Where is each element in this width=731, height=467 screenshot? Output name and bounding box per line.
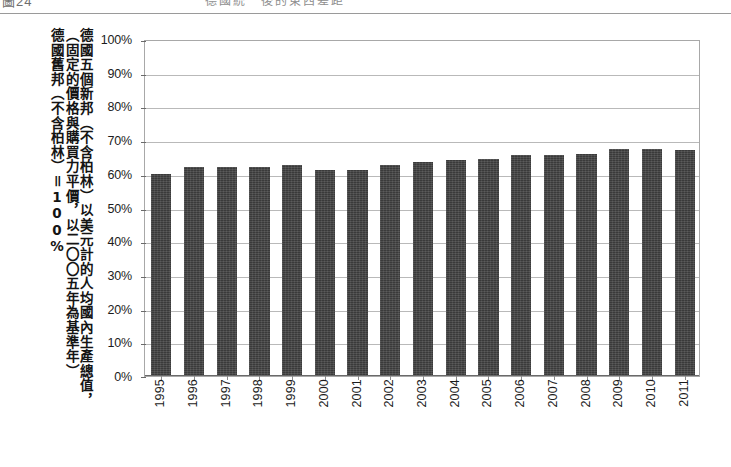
bar xyxy=(511,155,531,376)
y-axis-tick-label: 50% xyxy=(108,202,132,216)
x-axis-tick-label: 2009 xyxy=(611,379,625,408)
y-axis-tick-label: 40% xyxy=(108,235,132,249)
x-axis-tick-label: 1997 xyxy=(219,379,233,408)
page-header-right-text: 德國統一後的東西差距 xyxy=(205,0,345,8)
y-axis-tick-label: 80% xyxy=(108,100,132,114)
bar xyxy=(380,165,400,376)
x-axis-tick-label: 2002 xyxy=(382,379,396,408)
page-header-left-text: 圖24 xyxy=(2,0,32,10)
y-axis-tick-mark xyxy=(141,344,146,345)
bar-series xyxy=(145,41,699,376)
y-axis-tick-mark xyxy=(141,176,146,177)
figure-bar-chart: 德國五個新邦（不含柏林）以美元計的人均國內生產總值， （固定的價格與購買力平價，… xyxy=(0,22,731,467)
header-divider xyxy=(0,13,731,14)
bar xyxy=(478,159,498,376)
y-axis-tick-label: 10% xyxy=(108,336,132,350)
bar xyxy=(576,154,596,376)
y-axis-tick-mark xyxy=(141,41,146,42)
x-axis-tick-label: 2004 xyxy=(448,379,462,408)
y-axis-tick-label: 60% xyxy=(108,168,132,182)
bar xyxy=(249,167,269,376)
y-axis-tick-label: 90% xyxy=(108,67,132,81)
x-axis-tick-label: 1999 xyxy=(284,379,298,408)
bar xyxy=(184,167,204,376)
x-axis-tick-label: 1996 xyxy=(186,379,200,408)
y-axis-tick-mark xyxy=(141,277,146,278)
y-axis-title: 德國五個新邦（不含柏林）以美元計的人均國內生產總值， （固定的價格與購買力平價，… xyxy=(6,28,92,448)
bar xyxy=(609,149,629,376)
bar xyxy=(675,150,695,376)
y-axis-tick-labels: 100%90%80%70%60%50%40%30%20%10%0% xyxy=(92,40,136,377)
y-axis-tick-mark xyxy=(141,243,146,244)
y-axis-tick-mark xyxy=(141,108,146,109)
x-axis-tick-label: 2010 xyxy=(644,379,658,408)
x-axis-tick-label: 2011 xyxy=(677,379,691,407)
bar xyxy=(642,149,662,376)
bar xyxy=(544,155,564,376)
y-axis-tick-mark xyxy=(141,75,146,76)
bar xyxy=(446,160,466,376)
x-axis-tick-labels: 1995199619971998199920002001200220032004… xyxy=(144,379,700,459)
x-axis-baseline xyxy=(145,375,699,376)
x-axis-tick-label: 2000 xyxy=(317,379,331,408)
bar xyxy=(217,167,237,376)
y-axis-tick-mark xyxy=(141,311,146,312)
y-axis-title-column-2: （固定的價格與購買力平價，以二〇〇五年為基準年） xyxy=(64,28,78,426)
y-axis-tick-label: 20% xyxy=(108,303,132,317)
y-axis-tick-label: 100% xyxy=(101,33,132,47)
x-axis-tick-label: 2003 xyxy=(415,379,429,408)
y-axis-tick-mark xyxy=(141,142,146,143)
y-axis-title-column-3: 德國舊邦（不含柏林）＝100% xyxy=(50,28,64,426)
x-axis-tick-label: 1995 xyxy=(153,379,167,408)
page-header: 圖24 德國統一後的東西差距 xyxy=(0,0,731,14)
x-axis-tick-label: 2001 xyxy=(350,379,364,408)
bar xyxy=(315,170,335,376)
chart-area: 100%90%80%70%60%50%40%30%20%10%0% 199519… xyxy=(92,22,731,467)
y-axis-tick-label: 70% xyxy=(108,134,132,148)
x-axis-tick-label: 2005 xyxy=(480,379,494,408)
y-axis-tick-mark xyxy=(141,377,146,378)
x-axis-tick-label: 1998 xyxy=(251,379,265,408)
y-axis-title-column-1: 德國五個新邦（不含柏林）以美元計的人均國內生產總值， xyxy=(79,28,93,426)
x-axis-tick-label: 2008 xyxy=(579,379,593,408)
x-axis-tick-label: 2007 xyxy=(546,379,560,408)
plot-area xyxy=(144,40,700,377)
bar xyxy=(282,165,302,376)
y-axis-tick-mark xyxy=(141,210,146,211)
x-axis-tick-label: 2006 xyxy=(513,379,527,408)
y-axis-tick-label: 30% xyxy=(108,269,132,283)
bar xyxy=(347,170,367,376)
bar xyxy=(413,162,433,376)
y-axis-tick-label: 0% xyxy=(114,370,132,384)
bar xyxy=(151,174,171,376)
